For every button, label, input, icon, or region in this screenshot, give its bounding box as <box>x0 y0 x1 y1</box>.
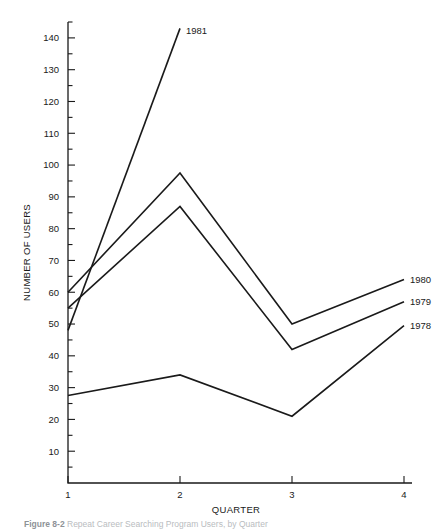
series-label-1978: 1978 <box>410 320 431 331</box>
x-tick-label: 1 <box>65 489 70 500</box>
y-tick-label: 40 <box>48 350 59 361</box>
series-line-1979 <box>68 206 404 349</box>
series-line-1981 <box>68 28 180 330</box>
y-tick-label: 130 <box>43 64 59 75</box>
y-tick-label: 20 <box>48 414 59 425</box>
y-tick-label: 70 <box>48 255 59 266</box>
series-line-1978 <box>68 326 404 417</box>
y-tick-label: 120 <box>43 96 59 107</box>
y-tick-label: 90 <box>48 191 59 202</box>
x-tick-label: 4 <box>401 489 406 500</box>
x-tick-label: 3 <box>289 489 294 500</box>
figure-container: 1020304050607080901001101201301401234QUA… <box>0 0 434 532</box>
y-tick-label: 60 <box>48 287 59 298</box>
x-axis-title: QUARTER <box>212 504 260 515</box>
y-tick-label: 30 <box>48 382 59 393</box>
axis-lines <box>68 22 412 483</box>
figure-caption-text: Repeat Career Searching Program Users, b… <box>67 519 268 529</box>
y-axis-title: NUMBER OF USERS <box>21 204 32 301</box>
y-tick-label: 50 <box>48 318 59 329</box>
y-tick-label: 80 <box>48 223 59 234</box>
line-chart: 1020304050607080901001101201301401234QUA… <box>0 0 434 532</box>
x-tick-label: 2 <box>177 489 182 500</box>
series-label-1980: 1980 <box>410 274 431 285</box>
y-tick-label: 10 <box>48 446 59 457</box>
figure-caption: Figure 8-2 Repeat Career Searching Progr… <box>24 519 424 530</box>
y-tick-label: 140 <box>43 32 59 43</box>
series-label-1979: 1979 <box>410 296 431 307</box>
y-tick-label: 100 <box>43 159 59 170</box>
series-label-1981: 1981 <box>186 25 207 36</box>
figure-caption-number: Figure 8-2 <box>24 519 65 529</box>
y-tick-label: 110 <box>44 128 59 139</box>
